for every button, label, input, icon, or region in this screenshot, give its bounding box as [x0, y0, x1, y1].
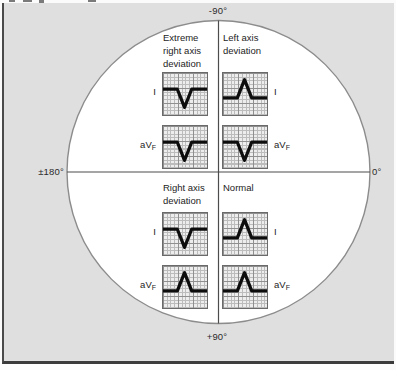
quadrant-title-extreme-right-axis-deviation: Extreme right axis deviation — [163, 31, 201, 70]
ecg-strip-right-axis-lead-I: I — [162, 212, 208, 256]
ecg-strip-extreme-right-lead-aVF: aVF — [162, 125, 208, 169]
lead-label-I: I — [274, 226, 277, 239]
ecg-strip-left-axis-lead-I: I — [222, 72, 268, 116]
ecg-waveform — [163, 73, 207, 115]
lead-label-aVF: aVF — [140, 139, 156, 152]
lead-label-aVF: aVF — [274, 279, 290, 292]
ecg-strip-normal-lead-aVF: aVF — [222, 265, 268, 309]
lead-label-I: I — [153, 226, 156, 239]
degree-label-top: -90° — [209, 5, 227, 16]
quadrant-title-right-axis-deviation: Right axis deviation — [163, 181, 205, 207]
ecg-strip-extreme-right-lead-I: I — [162, 72, 208, 116]
lead-label-I: I — [274, 86, 277, 99]
quadrant-title-normal: Normal — [223, 181, 254, 194]
ecg-waveform — [223, 213, 267, 255]
degree-label-left: ±180° — [34, 166, 64, 177]
ecg-waveform — [223, 126, 267, 168]
lead-label-I: I — [153, 86, 156, 99]
degree-label-right: 0° — [372, 166, 381, 177]
ecg-strip-normal-lead-I: I — [222, 212, 268, 256]
ecg-waveform — [163, 213, 207, 255]
ecg-strip-left-axis-lead-aVF: aVF — [222, 125, 268, 169]
lead-label-aVF: aVF — [140, 279, 156, 292]
lead-label-aVF: aVF — [274, 139, 290, 152]
ecg-waveform — [223, 73, 267, 115]
ecg-strip-right-axis-lead-aVF: aVF — [162, 265, 208, 309]
ecg-waveform — [163, 266, 207, 308]
ecg-waveform — [223, 266, 267, 308]
quadrant-title-left-axis-deviation: Left axis deviation — [223, 31, 261, 57]
ecg-waveform — [163, 126, 207, 168]
degree-label-bottom: +90° — [207, 331, 228, 342]
